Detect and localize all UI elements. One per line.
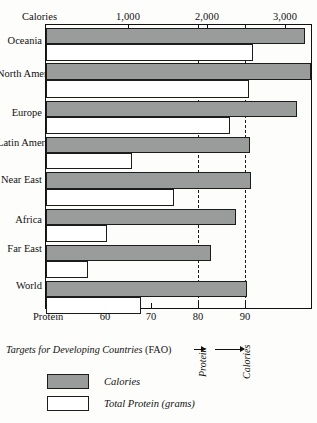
- target-protein-label: Protein: [197, 347, 208, 377]
- top-axis: Calories 1,000 2,000 3,000: [0, 11, 317, 25]
- bar-calories-africa: [46, 209, 236, 225]
- bottom-tick-label: 70: [146, 311, 157, 323]
- plot-area: [45, 24, 312, 309]
- table-row: [46, 137, 311, 169]
- region-label-near-east: Near East: [0, 174, 42, 186]
- region-label-latin-america: Latin America: [0, 137, 42, 149]
- bar-protein-near-east: [46, 189, 174, 206]
- bottom-tick-label: 60: [100, 311, 111, 323]
- bar-calories-far-east: [46, 245, 211, 261]
- calories-protein-bar-chart: Calories 1,000 2,000 3,000 Oceania North…: [0, 0, 317, 423]
- bar-calories-oceania: [46, 28, 305, 44]
- top-tick-label: 2,000: [195, 11, 219, 23]
- bar-calories-latin-america: [46, 137, 250, 153]
- region-label-column: Oceania North America Europe Latin Ameri…: [0, 24, 45, 309]
- calories-swatch-icon: [47, 374, 89, 389]
- bar-calories-near-east: [46, 172, 251, 189]
- legend-label-calories: Calories: [104, 374, 140, 389]
- figure-title: [0, 0, 317, 9]
- bottom-axis: Protein 60 70 80 90: [0, 311, 317, 325]
- arrow-to-calories: [215, 349, 244, 350]
- table-row: [46, 281, 311, 314]
- region-label-oceania: Oceania: [8, 35, 42, 47]
- table-row: [46, 28, 311, 61]
- bottom-tick-label: 80: [193, 311, 204, 323]
- target-calories-label: Calories: [241, 345, 252, 379]
- bar-protein-oceania: [46, 44, 253, 61]
- table-row: [46, 172, 311, 206]
- protein-swatch-icon: [47, 396, 89, 411]
- region-label-north-america: North America: [0, 68, 42, 80]
- bar-protein-latin-america: [46, 153, 132, 169]
- top-tick-label: 1,000: [116, 11, 140, 23]
- bar-protein-far-east: [46, 261, 88, 278]
- fao-target-text: Targets for Developing Countries: [6, 344, 143, 355]
- region-label-europe: Europe: [12, 107, 42, 119]
- bar-protein-europe: [46, 117, 230, 134]
- fao-target-note: Targets for Developing Countries (FAO): [6, 344, 171, 356]
- bar-rows: [46, 25, 311, 308]
- bar-calories-north-america: [46, 63, 311, 80]
- bar-protein-africa: [46, 225, 107, 242]
- table-row: [46, 63, 311, 98]
- region-label-africa: Africa: [15, 214, 42, 226]
- table-row: [46, 209, 311, 242]
- bottom-axis-name: Protein: [33, 311, 63, 323]
- table-row: [46, 101, 311, 134]
- bottom-tick-label: 90: [240, 311, 251, 323]
- region-label-world: World: [16, 280, 42, 292]
- fao-abbrev: (FAO): [145, 344, 171, 355]
- legend-label-protein: Total Protein (grams): [104, 396, 195, 411]
- bar-protein-north-america: [46, 80, 249, 98]
- top-axis-name: Calories: [22, 11, 57, 23]
- top-tick-label: 3,000: [273, 11, 297, 23]
- bar-calories-world: [46, 281, 247, 297]
- table-row: [46, 245, 311, 278]
- region-label-far-east: Far East: [0, 243, 42, 255]
- bar-calories-europe: [46, 101, 297, 117]
